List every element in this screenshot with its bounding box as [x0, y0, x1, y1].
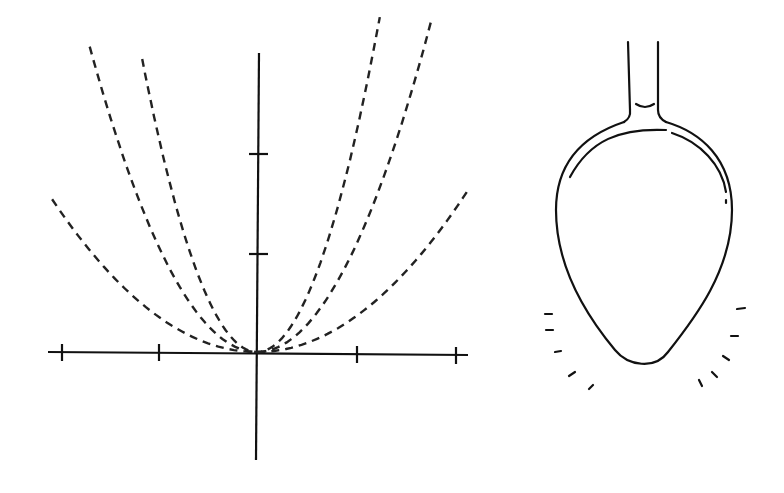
radiating-stroke — [712, 372, 717, 377]
radiating-stroke — [555, 351, 561, 352]
radiating-stroke — [737, 308, 745, 309]
spoon-handle-left — [624, 42, 630, 122]
radiating-stroke — [589, 385, 593, 389]
parabola-middle — [90, 17, 433, 352]
spoon-drawing — [545, 42, 745, 389]
y-axis — [256, 53, 259, 460]
spoon-handle-right — [658, 42, 666, 122]
radiating-stroke — [569, 372, 575, 376]
spoon-rim-highlight-left — [570, 130, 666, 177]
figure-canvas — [0, 0, 784, 493]
parabola-outer — [52, 190, 468, 352]
radiating-stroke — [699, 380, 702, 386]
radiating-stroke — [723, 356, 729, 360]
parabola-curves — [52, 17, 468, 352]
spoon-rim-highlight-right — [672, 133, 726, 192]
parabola-inner — [142, 17, 380, 352]
spoon-neck-curve — [636, 104, 654, 107]
coordinate-axes — [48, 53, 468, 460]
